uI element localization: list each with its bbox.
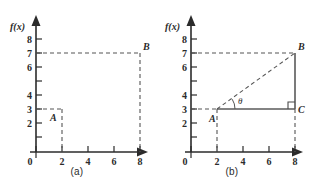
x-tick-label-8-a: 8 bbox=[138, 156, 143, 166]
figure-container: f(x) 8 7 6 4 3 2 0 2 4 6 8 A B (a) bbox=[0, 0, 309, 191]
panel-a: f(x) 8 7 6 4 3 2 0 2 4 6 8 A B (a) bbox=[0, 0, 154, 191]
y-tick-label-8-b: 8 bbox=[182, 34, 187, 45]
y-tick-label-2-a: 2 bbox=[27, 118, 32, 129]
segment-ab-hypotenuse bbox=[217, 53, 295, 109]
panel-b-caption: (b) bbox=[155, 166, 309, 177]
point-label-b-panel-b: B bbox=[297, 41, 305, 52]
panel-a-plot: f(x) 8 7 6 4 3 2 0 2 4 6 8 A B bbox=[0, 0, 154, 166]
y-axis-arrow-a bbox=[32, 15, 41, 26]
x-tick-label-6-b: 6 bbox=[267, 156, 272, 166]
y-tick-label-4-b: 4 bbox=[182, 90, 187, 101]
x-tick-label-0-a: 0 bbox=[28, 156, 33, 166]
x-tick-label-0-b: 0 bbox=[183, 156, 188, 166]
x-tick-label-8-b: 8 bbox=[293, 156, 298, 166]
x-tick-label-2-a: 2 bbox=[60, 156, 65, 166]
point-label-a-panel-a: A bbox=[49, 112, 57, 123]
x-tick-label-4-b: 4 bbox=[241, 156, 246, 166]
y-axis-arrow-b bbox=[187, 15, 196, 26]
y-tick-label-7-a: 7 bbox=[27, 48, 32, 59]
y-axis-label-a: f(x) bbox=[10, 21, 25, 33]
right-angle-marker-c bbox=[288, 102, 295, 109]
y-tick-label-7-b: 7 bbox=[182, 48, 187, 59]
y-axis-label-b: f(x) bbox=[165, 21, 180, 33]
angle-label-theta: θ bbox=[238, 96, 243, 106]
x-tick-label-2-b: 2 bbox=[215, 156, 220, 166]
panel-b-plot: f(x) 8 7 6 4 3 2 0 2 4 6 8 A B C θ bbox=[155, 0, 309, 166]
panel-b: f(x) 8 7 6 4 3 2 0 2 4 6 8 A B C θ (b) bbox=[155, 0, 309, 191]
point-label-a-panel-b: A bbox=[208, 113, 216, 124]
panel-a-caption: (a) bbox=[0, 166, 154, 177]
y-tick-label-6-b: 6 bbox=[182, 62, 187, 73]
y-tick-label-3-a: 3 bbox=[27, 104, 32, 115]
y-tick-label-4-a: 4 bbox=[27, 90, 32, 101]
point-label-c-panel-b: C bbox=[298, 104, 305, 115]
y-tick-label-8-a: 8 bbox=[27, 34, 32, 45]
point-label-b-panel-a: B bbox=[142, 41, 150, 52]
angle-arc-theta bbox=[232, 99, 235, 109]
x-tick-label-4-a: 4 bbox=[86, 156, 91, 166]
y-tick-label-2-b: 2 bbox=[182, 118, 187, 129]
y-tick-label-6-a: 6 bbox=[27, 62, 32, 73]
x-tick-label-6-a: 6 bbox=[112, 156, 117, 166]
y-tick-label-3-b: 3 bbox=[182, 104, 187, 115]
